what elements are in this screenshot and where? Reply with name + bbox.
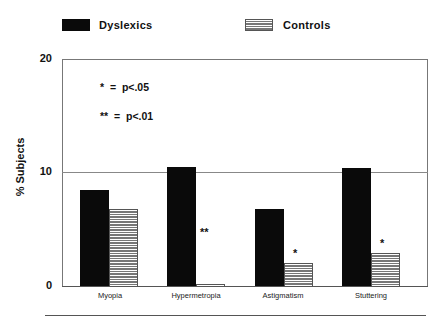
legend-label-controls: Controls (283, 19, 331, 31)
significance-mark-stuttering: * (380, 237, 384, 249)
x-tick-astigmatism: Astigmatism (243, 291, 323, 300)
bottom-rule (45, 315, 426, 316)
bar-dyslexics-myopia (80, 190, 109, 286)
x-tick-hypermetropia: Hypermetropia (156, 291, 236, 300)
bar-controls-stuttering (371, 253, 400, 286)
x-tick-stuttering: Stuttering (331, 291, 411, 300)
y-tick-20: 20 (22, 52, 52, 64)
x-axis-baseline (62, 286, 428, 287)
bar-controls-hypermetropia (196, 284, 225, 286)
gridline-10 (62, 172, 428, 173)
x-tick-myopia: Myopia (70, 291, 150, 300)
significance-mark-hypermetropia: ** (200, 226, 209, 238)
legend-label-dyslexics: Dyslexics (99, 19, 152, 31)
y-tick-0: 0 (22, 279, 52, 291)
bar-dyslexics-astigmatism (255, 209, 284, 286)
annotation-p05: * = p<.05 (100, 81, 149, 93)
bar-dyslexics-stuttering (342, 168, 371, 286)
bar-controls-myopia (109, 209, 138, 286)
significance-mark-astigmatism: * (293, 247, 297, 259)
legend-swatch-dyslexics (62, 19, 90, 31)
legend-swatch-controls (245, 19, 273, 31)
bar-controls-astigmatism (284, 263, 313, 286)
bar-dyslexics-hypermetropia (167, 167, 196, 286)
annotation-p01: ** = p<.01 (100, 110, 153, 122)
y-tick-10: 10 (22, 165, 52, 177)
